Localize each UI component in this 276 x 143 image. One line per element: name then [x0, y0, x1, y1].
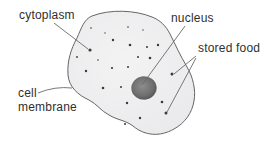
label-cell-membrane-line2: membrane — [18, 100, 77, 114]
granule-dot — [149, 57, 152, 60]
label-nucleus: nucleus — [171, 11, 214, 25]
granule-dot — [97, 59, 99, 61]
granule-dot — [127, 26, 129, 28]
granule-dot — [120, 86, 122, 88]
granule-dot — [88, 48, 91, 51]
granule-dot — [126, 102, 128, 104]
label-cell-membrane-line1: cell — [18, 86, 37, 100]
granule-dot — [146, 46, 148, 48]
granule-dot — [161, 101, 164, 104]
granule-dot — [85, 70, 87, 72]
granule-dot — [112, 39, 114, 41]
granule-dot — [139, 117, 141, 119]
granule-dot — [102, 87, 105, 90]
granule-dot — [124, 123, 126, 125]
label-stored-food: stored food — [198, 41, 260, 55]
granule-dot — [137, 56, 139, 58]
cell-diagram-figure: cytoplasm nucleus stored food cell membr… — [0, 0, 276, 143]
granule-dot — [76, 56, 78, 58]
granule-dot — [111, 67, 113, 69]
label-cytoplasm: cytoplasm — [19, 8, 75, 22]
granule-dot — [104, 32, 105, 33]
granule-dot — [129, 44, 132, 47]
label-cell-membrane: cell membrane — [18, 86, 84, 114]
granule-dot — [127, 66, 129, 68]
granule-dot — [157, 44, 159, 46]
granule-dot — [90, 27, 92, 29]
granule-dot — [171, 73, 174, 76]
granule-dot — [142, 29, 143, 30]
